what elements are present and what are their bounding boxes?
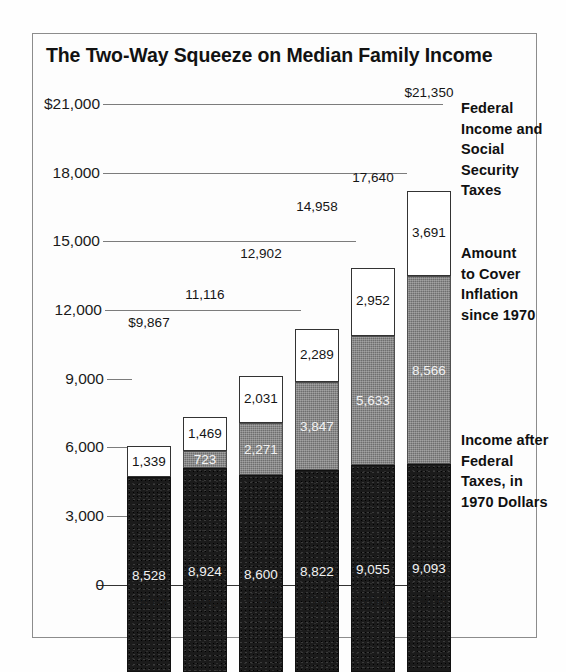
ytick-label-18000: 18,000 xyxy=(0,164,100,182)
plot-area: $21,000 18,000 15,000 12,000 9,000 6,000… xyxy=(0,0,566,672)
legend-taxes-line-4: Security xyxy=(461,160,543,181)
bar-segment-income-1972[interactable]: 8,924 xyxy=(183,468,227,672)
bar-segment-label-taxes-1980: 3,691 xyxy=(408,225,450,240)
bar-segment-inflation-1972[interactable]: 723 xyxy=(183,451,227,468)
xtick-label-1974: 1974 xyxy=(239,592,283,610)
legend-income-line-4: 1970 Dollars xyxy=(461,492,548,513)
bar-segment-taxes-1980[interactable]: 3,691 xyxy=(407,191,451,276)
ytick-label-3000: 3,000 xyxy=(0,507,104,525)
bar-segment-label-taxes-1974: 2,031 xyxy=(240,391,282,406)
legend-inflation-line-2: to Cover xyxy=(461,264,535,285)
bar-segment-label-income-1976: 8,822 xyxy=(296,564,338,579)
xtick-label-1970: 1970 xyxy=(127,592,171,610)
bar-segment-label-income-1978: 9,055 xyxy=(352,562,394,577)
bar-segment-income-1978[interactable]: 9,055 xyxy=(351,465,395,672)
ytick-label-12000: 12,000 xyxy=(0,301,102,319)
legend-income-line-1: Income after xyxy=(461,430,548,451)
bar-segment-taxes-1972[interactable]: 1,469 xyxy=(183,417,227,451)
bar-segment-taxes-1974[interactable]: 2,031 xyxy=(239,376,283,423)
xtick-label-1976: 1976 xyxy=(295,592,339,610)
legend-taxes-line-1: Federal xyxy=(461,98,543,119)
bar-segment-label-inflation-1976: 3,847 xyxy=(296,419,338,434)
legend-entry-inflation: Amount to Cover Inflation since 1970 xyxy=(461,243,535,325)
bar-group-1974[interactable]: 2,031 2,271 8,600 xyxy=(239,87,283,672)
legend-income-line-3: Taxes, in xyxy=(461,471,548,492)
bar-segment-label-inflation-1972: 723 xyxy=(184,452,226,467)
bar-segment-income-1980[interactable]: 9,093 xyxy=(407,464,451,672)
legend-entry-income: Income after Federal Taxes, in 1970 Doll… xyxy=(461,430,548,512)
ytick-label-15000: 15,000 xyxy=(0,232,100,250)
bar-segment-label-taxes-1978: 2,952 xyxy=(352,293,394,308)
bar-segment-taxes-1976[interactable]: 2,289 xyxy=(295,329,339,382)
bar-segment-label-taxes-1976: 2,289 xyxy=(296,347,338,362)
legend-taxes-line-3: Social xyxy=(461,139,543,160)
bar-segment-label-income-1980: 9,093 xyxy=(408,561,450,576)
bar-segment-inflation-1974[interactable]: 2,271 xyxy=(239,423,283,475)
bar-group-1980[interactable]: 3,691 8,566 9,093 xyxy=(407,87,451,672)
bar-segment-label-inflation-1974: 2,271 xyxy=(240,442,282,457)
xtick-label-1978: 1978 xyxy=(351,592,395,610)
bar-segment-inflation-1980[interactable]: 8,566 xyxy=(407,276,451,464)
ytick-label-21000: $21,000 xyxy=(0,95,100,113)
xtick-label-1980: 1980 xyxy=(407,592,451,610)
ytick-label-6000: 6,000 xyxy=(0,438,104,456)
bar-segment-income-1974[interactable]: 8,600 xyxy=(239,475,283,672)
bar-group-1970[interactable]: 1,339 8,528 xyxy=(127,87,171,672)
legend-taxes-line-2: Income and xyxy=(461,119,543,140)
legend-taxes-line-5: Taxes xyxy=(461,180,543,201)
bar-segment-taxes-1970[interactable]: 1,339 xyxy=(127,446,171,477)
bar-segment-label-inflation-1978: 5,633 xyxy=(352,393,394,408)
ytick-label-0: 0 xyxy=(0,576,104,594)
legend-income-line-2: Federal xyxy=(461,451,548,472)
bar-segment-label-income-1972: 8,924 xyxy=(184,564,226,579)
legend-entry-taxes: Federal Income and Social Security Taxes xyxy=(461,98,543,201)
bar-segment-taxes-1978[interactable]: 2,952 xyxy=(351,268,395,336)
bar-segment-label-taxes-1972: 1,469 xyxy=(184,426,226,441)
bar-segment-income-1970[interactable]: 8,528 xyxy=(127,477,171,672)
bar-segment-label-income-1974: 8,600 xyxy=(240,567,282,582)
bar-segment-income-1976[interactable]: 8,822 xyxy=(295,470,339,672)
xtick-label-1972: 1972 xyxy=(183,592,227,610)
bar-segment-label-inflation-1980: 8,566 xyxy=(408,363,450,378)
legend-inflation-line-4: since 1970 xyxy=(461,305,535,326)
bar-segment-inflation-1978[interactable]: 5,633 xyxy=(351,336,395,465)
ytick-label-9000: 9,000 xyxy=(0,370,104,388)
chart-figure: The Two-Way Squeeze on Median Family Inc… xyxy=(0,0,566,672)
bar-segment-label-income-1970: 8,528 xyxy=(128,568,170,583)
legend-inflation-line-1: Amount xyxy=(461,243,535,264)
bar-segment-inflation-1976[interactable]: 3,847 xyxy=(295,382,339,470)
bar-segment-label-taxes-1970: 1,339 xyxy=(128,454,170,469)
legend-inflation-line-3: Inflation xyxy=(461,284,535,305)
bar-group-1972[interactable]: 1,469 723 8,924 xyxy=(183,87,227,672)
bar-group-1978[interactable]: 2,952 5,633 9,055 xyxy=(351,87,395,672)
